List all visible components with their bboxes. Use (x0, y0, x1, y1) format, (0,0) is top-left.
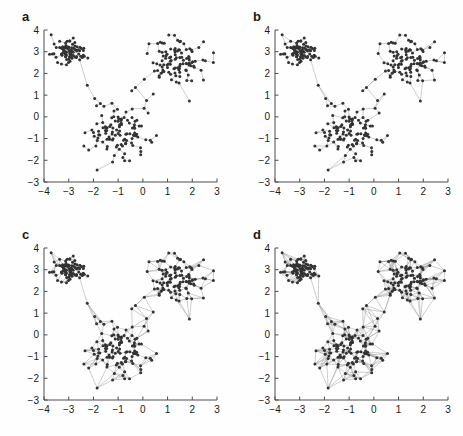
x-tick-label: −4 (38, 404, 50, 415)
y-tick-label: −3 (28, 177, 40, 188)
panel-c: c−4−3−2−10123−3−2−101234 (0, 218, 231, 436)
x-tick-label: 3 (214, 404, 220, 415)
y-tick-label: 0 (33, 329, 39, 340)
y-tick-label: 2 (264, 286, 270, 297)
y-tick-label: −3 (28, 395, 40, 406)
x-tick-label: 2 (190, 404, 196, 415)
y-tick-label: −2 (259, 155, 271, 166)
y-tick-label: −3 (259, 177, 271, 188)
x-tick-label: −4 (269, 186, 281, 197)
x-tick-label: −2 (88, 186, 100, 197)
x-tick-label: 3 (445, 404, 451, 415)
x-tick-label: 0 (371, 186, 377, 197)
x-tick-label: 2 (421, 404, 427, 415)
y-tick-label: 0 (264, 111, 270, 122)
y-tick-label: 1 (264, 308, 270, 319)
y-tick-label: 1 (33, 308, 39, 319)
x-tick-label: −4 (269, 404, 281, 415)
x-tick-label: 1 (165, 186, 171, 197)
x-tick-label: −2 (88, 404, 100, 415)
x-tick-label: −3 (63, 404, 75, 415)
y-tick-label: −3 (259, 395, 271, 406)
y-tick-label: −1 (259, 133, 271, 144)
plot-area-d: −4−3−2−10123−3−2−101234 (231, 218, 462, 436)
y-tick-label: 4 (264, 25, 270, 36)
x-tick-label: 1 (396, 186, 402, 197)
y-tick-label: 0 (264, 329, 270, 340)
plot-area-a: −4−3−2−10123−3−2−101234 (0, 0, 231, 218)
y-tick-label: 2 (264, 68, 270, 79)
node-layer (48, 33, 215, 171)
y-tick-label: −2 (28, 373, 40, 384)
y-tick-label: 4 (264, 243, 270, 254)
x-tick-label: −3 (294, 186, 306, 197)
x-tick-label: −3 (294, 404, 306, 415)
y-tick-label: 4 (33, 25, 39, 36)
y-tick-label: 3 (264, 46, 270, 57)
y-tick-label: −2 (28, 155, 40, 166)
x-tick-label: −1 (112, 186, 124, 197)
plot-area-b: −4−3−2−10123−3−2−101234 (231, 0, 462, 218)
x-tick-label: 2 (190, 186, 196, 197)
x-tick-label: −4 (38, 186, 50, 197)
x-tick-label: 2 (421, 186, 427, 197)
x-tick-label: −1 (343, 186, 355, 197)
x-tick-label: 0 (140, 404, 146, 415)
x-tick-label: −3 (63, 186, 75, 197)
x-tick-label: 3 (214, 186, 220, 197)
x-tick-label: 0 (140, 186, 146, 197)
x-tick-label: 1 (165, 404, 171, 415)
y-tick-label: 1 (33, 90, 39, 101)
x-tick-label: 0 (371, 404, 377, 415)
x-tick-label: 1 (396, 404, 402, 415)
y-tick-label: 2 (33, 68, 39, 79)
y-tick-label: 0 (33, 111, 39, 122)
y-tick-label: 2 (33, 286, 39, 297)
x-tick-label: −2 (319, 186, 331, 197)
panel-a: a−4−3−2−10123−3−2−101234 (0, 0, 231, 218)
x-tick-label: −1 (343, 404, 355, 415)
x-tick-label: −1 (112, 404, 124, 415)
x-tick-label: 3 (445, 186, 451, 197)
y-tick-label: 3 (33, 264, 39, 275)
panel-b: b−4−3−2−10123−3−2−101234 (231, 0, 462, 218)
y-tick-label: −1 (28, 351, 40, 362)
x-tick-label: −2 (319, 404, 331, 415)
y-tick-label: 3 (33, 46, 39, 57)
y-tick-label: −2 (259, 373, 271, 384)
figure-container: a−4−3−2−10123−3−2−101234b−4−3−2−10123−3−… (0, 0, 463, 436)
y-tick-label: 3 (264, 264, 270, 275)
node-layer (279, 33, 446, 171)
y-tick-label: 1 (264, 90, 270, 101)
y-tick-label: −1 (28, 133, 40, 144)
plot-area-c: −4−3−2−10123−3−2−101234 (0, 218, 231, 436)
y-tick-label: −1 (259, 351, 271, 362)
y-tick-label: 4 (33, 243, 39, 254)
panel-d: d−4−3−2−10123−3−2−101234 (231, 218, 462, 436)
